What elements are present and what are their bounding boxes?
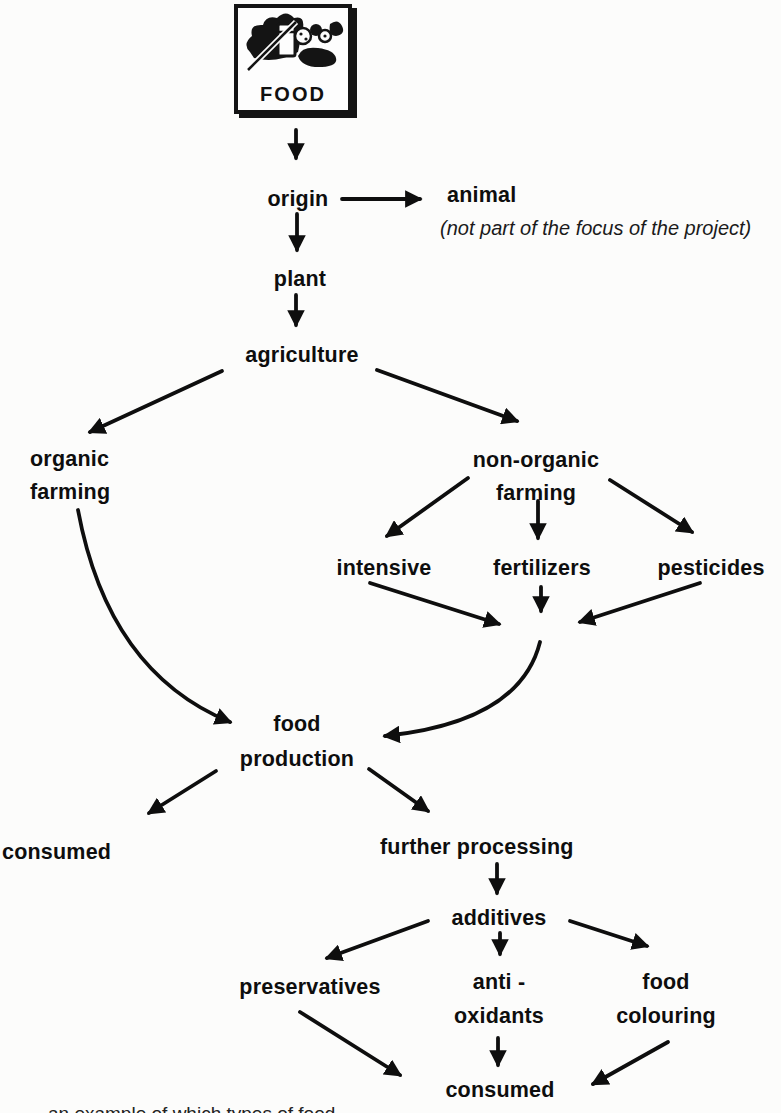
anti-oxidants-line2: oxidants (440, 999, 558, 1033)
arrow-additives-to-colouring (570, 921, 647, 946)
node-fertilizers: fertilizers (478, 556, 606, 580)
node-agriculture: agriculture (226, 343, 378, 367)
non-organic-farming-line1: non-organic (455, 444, 617, 477)
node-consumed-final: consumed (432, 1078, 568, 1102)
food-image-box: FOOD (234, 4, 352, 114)
node-anti-oxidants: anti - oxidants (440, 965, 558, 1033)
food-production-line1: food (227, 707, 367, 742)
food-mind-map-diagram: FOOD origin animal (not part of the focu… (0, 0, 781, 1113)
arrow-colouring-to-consumed (593, 1042, 668, 1084)
node-plant: plant (259, 267, 341, 291)
arrow-intensive-converge (370, 583, 499, 624)
node-food-production: food production (227, 707, 367, 777)
arrow-production-to-processing (369, 769, 428, 811)
node-animal: animal (447, 183, 516, 207)
arrow-agriculture-to-nonorganic (377, 370, 517, 421)
curve-nonorganic-to-food-production (385, 642, 540, 736)
curve-organic-to-food-production (78, 510, 230, 722)
node-food-colouring: food colouring (605, 965, 727, 1033)
organic-farming-line1: organic (30, 443, 110, 476)
node-organic-farming: organic farming (30, 443, 110, 509)
arrow-pesticides-converge (580, 583, 700, 622)
cutoff-caption-fragment: an example of which types of food (48, 1103, 348, 1113)
non-organic-farming-line2: farming (455, 477, 617, 510)
food-box-label: FOOD (260, 83, 326, 106)
arrow-production-to-consumed (149, 771, 216, 813)
node-consumed: consumed (2, 840, 111, 864)
food-colouring-line2: colouring (605, 999, 727, 1033)
node-non-organic-farming: non-organic farming (455, 444, 617, 510)
node-origin: origin (258, 187, 338, 211)
arrow-agriculture-to-organic (90, 371, 222, 432)
node-further-processing: further processing (380, 835, 574, 859)
anti-oxidants-line1: anti - (440, 965, 558, 999)
food-production-line2: production (227, 742, 367, 777)
organic-farming-line2: farming (30, 476, 110, 509)
food-colouring-line1: food (605, 965, 727, 999)
node-intensive: intensive (325, 556, 443, 580)
node-additives: additives (437, 906, 561, 930)
groceries-clipart-icon (240, 12, 346, 78)
node-pesticides: pesticides (645, 556, 777, 580)
arrow-additives-to-preservatives (327, 921, 428, 958)
arrow-preservatives-to-consumed (300, 1012, 400, 1075)
node-preservatives: preservatives (222, 975, 398, 999)
animal-note: (not part of the focus of the project) (440, 217, 751, 240)
arrow-nonorganic-to-pesticides (610, 480, 692, 532)
